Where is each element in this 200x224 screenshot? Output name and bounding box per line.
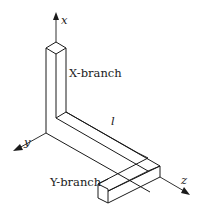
x-axis-label: x	[61, 13, 68, 27]
y-axis-arrowhead-icon	[13, 144, 23, 151]
y-branch-label: Y-branch	[49, 175, 102, 189]
x-branch-label: X-branch	[69, 66, 122, 80]
y-axis-label: y	[23, 135, 31, 149]
beam-diagram: x y	[0, 0, 200, 224]
z-corner	[148, 166, 160, 177]
x-branch-beam	[46, 42, 66, 133]
length-label: l	[111, 114, 115, 128]
z-axis-arrowhead-icon	[181, 187, 190, 195]
z-axis-label: z	[180, 173, 188, 187]
x-axis	[53, 12, 59, 44]
x-axis-arrowhead-icon	[53, 12, 59, 20]
